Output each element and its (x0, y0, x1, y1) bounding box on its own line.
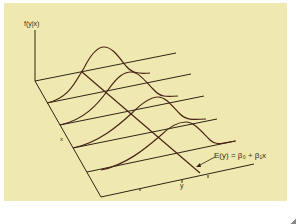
horizontal-axis-label: y (180, 182, 184, 189)
slice-line-3 (60, 96, 204, 125)
annotation-arrow (198, 157, 215, 166)
slice-line-2 (47, 74, 191, 103)
bell-curve-1 (47, 47, 150, 103)
slice-line-4 (73, 119, 217, 148)
regression-equation-label: E(y) = β₀ + β₁x (214, 151, 266, 160)
regression-diagram (0, 0, 296, 224)
vertical-axis-label: f(y|x) (24, 20, 39, 27)
page-curl (290, 218, 296, 224)
y-axis (101, 164, 254, 197)
slice-line-1 (35, 53, 176, 81)
depth-axis-label: x (60, 136, 63, 142)
